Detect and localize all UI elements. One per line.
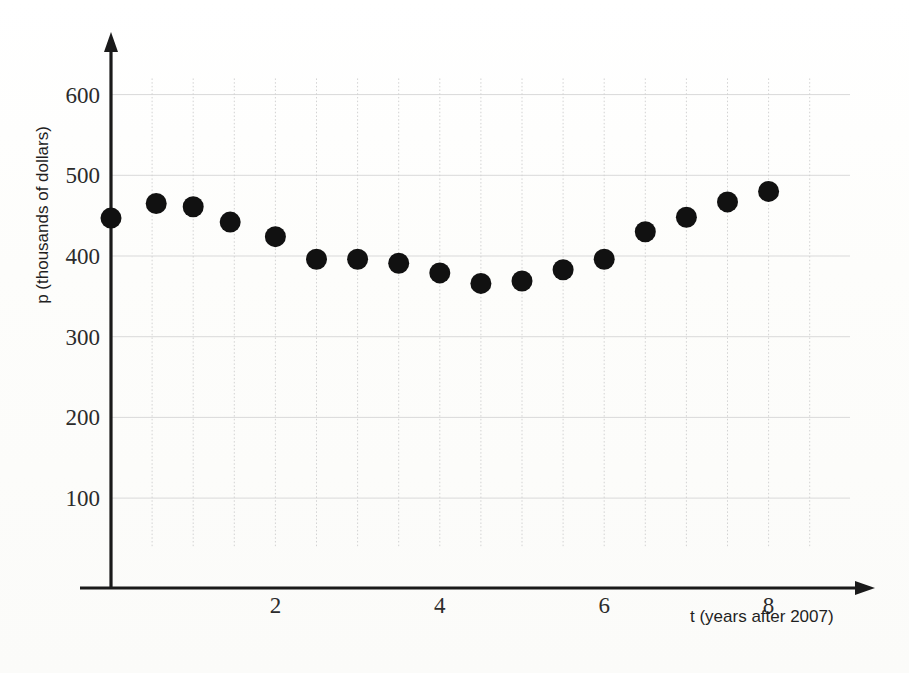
data-point [758,181,779,202]
y-tick-label: 300 [66,325,101,350]
chart-page: 100200300400500600 2468 t (years after 2… [0,0,909,673]
scatter-chart: 100200300400500600 2468 t (years after 2… [0,0,909,673]
data-point [594,249,615,270]
data-point [388,253,409,274]
x-axis-arrow-icon [855,581,875,595]
data-point [220,212,241,233]
y-axis-arrow-icon [104,32,118,52]
x-tick-label: 4 [434,593,446,618]
data-point [553,259,574,280]
data-point [470,273,491,294]
data-point [183,196,204,217]
data-point [146,193,167,214]
data-point [429,262,450,283]
y-axis [104,32,118,588]
data-point [676,207,697,228]
vertical-gridlines [152,78,810,546]
x-tick-label: 2 [270,593,282,618]
y-tick-labels: 100200300400500600 [66,83,101,512]
data-point [101,208,122,229]
y-axis-title: p (thousands of dollars) [33,126,52,304]
data-point [265,226,286,247]
data-point [347,249,368,270]
y-tick-label: 400 [66,244,101,269]
x-axis [80,581,875,595]
x-axis-title: t (years after 2007) [690,607,834,626]
data-point [306,249,327,270]
y-tick-label: 100 [66,486,101,511]
y-tick-label: 600 [66,83,101,108]
x-tick-label: 6 [598,593,610,618]
data-point [635,221,656,242]
y-tick-label: 200 [66,405,101,430]
y-tick-label: 500 [66,163,101,188]
data-point [512,271,533,292]
data-point [717,191,738,212]
